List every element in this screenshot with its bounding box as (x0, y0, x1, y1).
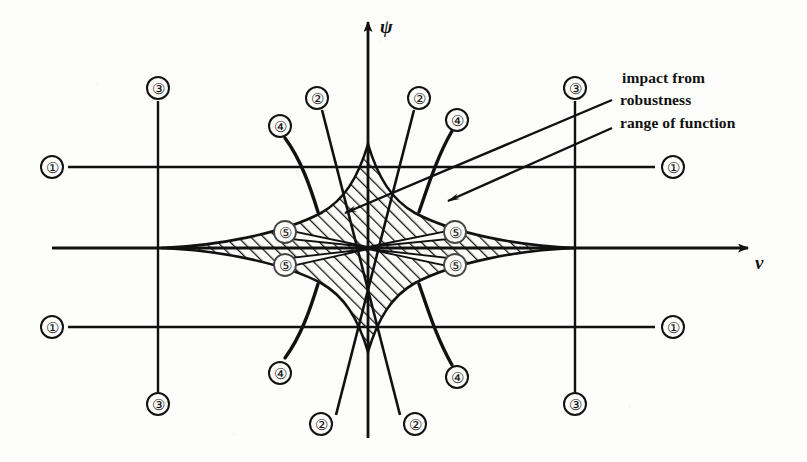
marker-5-right-upper[interactable]: ⑤ (444, 221, 466, 243)
marker-5-left-upper-label: ⑤ (279, 225, 292, 241)
marker-1-left-upper-label: ① (46, 160, 59, 176)
marker-3-top-left[interactable]: ③ (147, 77, 169, 99)
marker-2-top-left[interactable]: ② (306, 87, 328, 109)
marker-1-right-upper-label: ① (667, 160, 680, 176)
marker-4-bottom-right[interactable]: ④ (446, 366, 468, 388)
leader-robustness (345, 100, 612, 213)
marker-4-top-left-label: ④ (274, 119, 287, 135)
marker-3-top-left-label: ③ (152, 81, 165, 97)
marker-5-right-upper-label: ⑤ (449, 225, 462, 241)
marker-1-right-lower[interactable]: ① (662, 316, 684, 338)
marker-1-right-lower-label: ① (667, 320, 680, 336)
marker-4-bottom-right-label: ④ (451, 370, 464, 386)
marker-2-bottom-right-label: ② (409, 417, 422, 433)
curve-lower-left (285, 284, 318, 358)
marker-3-bottom-left-label: ③ (152, 397, 165, 413)
marker-2-bottom-left-label: ② (315, 417, 328, 433)
marker-2-bottom-left[interactable]: ② (310, 413, 332, 435)
curve-upper-left (285, 138, 318, 212)
y-axis-label-psi: ψ (380, 16, 393, 38)
marker-5-left-lower[interactable]: ⑤ (274, 254, 296, 276)
marker-4-bottom-left-label: ④ (274, 366, 287, 382)
annotation-range-of-function: range of function (620, 114, 735, 132)
marker-3-top-right-label: ③ (569, 81, 582, 97)
marker-1-left-lower[interactable]: ① (41, 316, 63, 338)
marker-4-bottom-left[interactable]: ④ (269, 362, 291, 384)
figure-canvas: ① ① ① ① ③ ③ (0, 0, 807, 462)
marker-1-left-upper[interactable]: ① (41, 156, 63, 178)
marker-4-top-left[interactable]: ④ (269, 115, 291, 137)
marker-2-top-right[interactable]: ② (408, 87, 430, 109)
marker-3-top-right[interactable]: ③ (564, 77, 586, 99)
marker-4-top-right[interactable]: ④ (446, 109, 468, 131)
marker-2-top-right-label: ② (413, 91, 426, 107)
marker-3-bottom-left[interactable]: ③ (147, 393, 169, 415)
marker-5-right-lower[interactable]: ⑤ (444, 254, 466, 276)
marker-1-left-lower-label: ① (46, 320, 59, 336)
marker-5-left-lower-label: ⑤ (279, 258, 292, 274)
annotation-impact-from: impact from (622, 69, 705, 87)
annotation-robustness: robustness (620, 91, 691, 109)
marker-2-top-left-label: ② (311, 91, 324, 107)
marker-3-bottom-right-label: ③ (569, 397, 582, 413)
leader-range-of-function (448, 128, 612, 201)
marker-1-right-upper[interactable]: ① (662, 156, 684, 178)
marker-3-bottom-right[interactable]: ③ (564, 393, 586, 415)
x-axis-label-nu: ν (755, 252, 763, 274)
curve-upper-right (419, 131, 452, 212)
marker-5-left-upper[interactable]: ⑤ (274, 221, 296, 243)
marker-5-right-lower-label: ⑤ (449, 258, 462, 274)
leader-lines (345, 100, 612, 213)
curve-lower-right (419, 284, 452, 365)
marker-2-bottom-right[interactable]: ② (404, 413, 426, 435)
marker-4-top-right-label: ④ (451, 113, 464, 129)
